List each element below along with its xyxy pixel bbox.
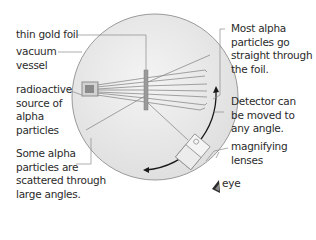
label-straight-through: Most alpha particles go straight through… xyxy=(231,22,312,76)
label-eye: eye xyxy=(222,177,240,191)
eye-icon xyxy=(212,180,220,193)
gold-foil xyxy=(144,70,148,110)
source-core xyxy=(85,85,94,93)
label-radioactive-source: radioactive source of alpha particles xyxy=(16,83,72,137)
label-vacuum-vessel: vacuum vessel xyxy=(16,45,56,72)
label-gold-foil: thin gold foil xyxy=(16,28,78,42)
label-detector: Detector can be moved to any angle. xyxy=(231,95,296,136)
label-scattered: Some alpha particles are scattered throu… xyxy=(16,147,106,201)
label-magnifying-lenses: magnifying lenses xyxy=(231,140,287,167)
